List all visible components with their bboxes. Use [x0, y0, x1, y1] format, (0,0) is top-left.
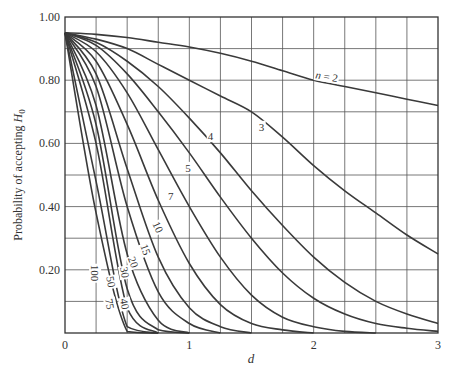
curve-label: 10: [150, 220, 166, 235]
y-tick-label: 0.60: [39, 136, 60, 150]
oc-curve: [65, 33, 220, 333]
y-axis-ticks: 0.200.400.600.801.00: [39, 10, 60, 277]
x-tick-label: 1: [186, 338, 192, 352]
y-axis-label: Probability of accepting H0: [11, 109, 27, 241]
curve-label: 7: [168, 190, 174, 202]
curve-label: 4: [208, 130, 214, 142]
y-tick-label: 0.40: [39, 200, 60, 214]
x-tick-label: 3: [435, 338, 441, 352]
oc-curve-chart: n = 2345710152030405075100 0123 0.200.40…: [0, 0, 455, 381]
y-tick-label: 0.20: [39, 263, 60, 277]
x-axis-ticks: 0123: [62, 338, 441, 352]
x-axis-label: d: [248, 351, 255, 366]
y-tick-label: 0.80: [39, 73, 60, 87]
curve-label: 100: [89, 265, 101, 282]
curve-label: 5: [185, 162, 191, 174]
y-tick-label: 1.00: [39, 10, 60, 24]
x-tick-label: 2: [311, 338, 317, 352]
curve-label: 3: [259, 121, 265, 133]
y-axis-label-text: Probability of accepting: [11, 122, 25, 240]
x-tick-label: 0: [62, 338, 68, 352]
y-axis-label-subscript: 0: [17, 109, 27, 114]
